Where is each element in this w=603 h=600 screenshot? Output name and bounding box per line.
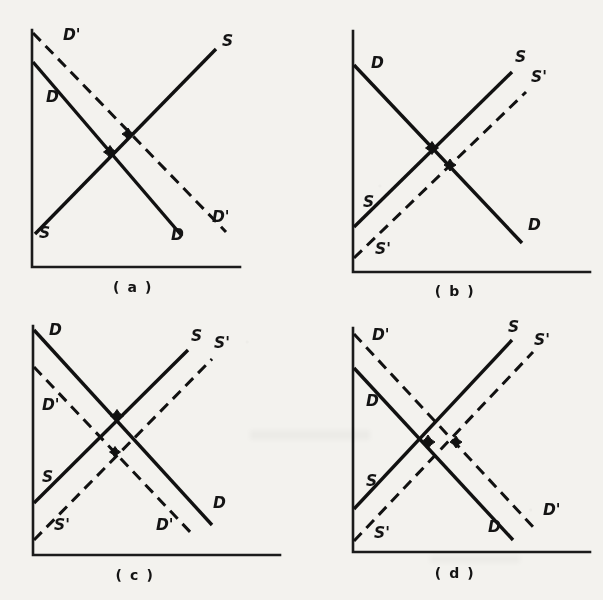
panel-b-label-S-prime-end-1: S' [531, 68, 547, 86]
panel-c-label-D-prime-start: D' [42, 396, 60, 414]
panel-caption-d: ( d ) [435, 565, 476, 581]
panel-a-label-S-start: S [39, 224, 50, 242]
panel-d-label-S-end-0: S [508, 318, 519, 336]
panel-d-equilibrium-point-2 [450, 436, 462, 448]
panel-b-label-S-end-0: S [515, 48, 526, 66]
panel-d-label-S-start: S [366, 472, 377, 490]
panel-a-label-D-start: D [46, 88, 59, 106]
panel-b: DSS'SS'D [353, 31, 590, 272]
panel-a-equilibrium-point-2 [122, 128, 134, 140]
panel-c-equilibrium-point-1 [111, 410, 124, 423]
panel-caption-a: ( a ) [113, 279, 153, 295]
panel-c-curve-D [34, 330, 212, 525]
panel-b-curve-D [354, 65, 522, 243]
figure-canvas: DD'SSDD'DSS'SS'DDD'SS'SS'DD'DD'SS'SS'DD'… [0, 0, 603, 600]
panel-b-curve-S-prime [354, 92, 526, 258]
panel-d: DD'SS'SS'DD' [353, 318, 590, 552]
panel-a-label-S-end-0: S [222, 32, 233, 50]
panel-caption-b: ( b ) [435, 283, 476, 299]
panel-c-label-S-prime-start: S' [54, 516, 70, 534]
panel-d-label-D-prime-end-3: D' [543, 501, 561, 519]
panel-a-curve-S [35, 49, 216, 234]
panel-d-label-D-start: D [366, 392, 379, 410]
panel-d-curve-D-prime [354, 334, 535, 529]
panel-caption-c: ( c ) [116, 567, 155, 583]
panel-b-label-D-start: D [371, 54, 384, 72]
panel-a-label-D-prime-start: D' [63, 26, 81, 44]
panel-a-label-D-prime-end-2: D' [212, 208, 230, 226]
supply-demand-figure: DD'SSDD'DSS'SS'DDD'SS'SS'DD'DD'SS'SS'DD'… [0, 0, 603, 600]
panel-c-label-D-end-2: D [213, 494, 226, 512]
panel-c-label-S-prime-end-1: S' [214, 334, 230, 352]
panel-d-label-D-prime-start: D' [372, 326, 390, 344]
panel-c-label-S-start: S [42, 468, 53, 486]
panel-b-label-D-end-2: D [528, 216, 541, 234]
panel-c-label-S-end-0: S [191, 327, 202, 345]
panel-b-label-S-prime-start: S' [375, 240, 391, 258]
panel-c-label-D-start: D [49, 321, 62, 339]
panel-d-label-S-prime-start: S' [374, 524, 390, 542]
panel-d-curve-S [354, 340, 512, 509]
panel-b-label-S-start: S [363, 193, 374, 211]
panel-c-curve-S-prime [34, 359, 212, 540]
panel-c-curve-S [34, 350, 188, 503]
panel-a: DD'SSDD' [32, 26, 240, 267]
panel-c-label-D-prime-end-3: D' [156, 516, 174, 534]
panel-b-axes [353, 31, 590, 272]
panel-d-label-S-prime-end-1: S' [534, 331, 550, 349]
panel-a-label-D-end-1: D [171, 226, 184, 244]
panel-d-curve-S-prime [354, 352, 533, 541]
panel-d-label-D-end-2: D [488, 518, 501, 536]
panel-c: DD'SS'SS'DD' [33, 321, 280, 555]
